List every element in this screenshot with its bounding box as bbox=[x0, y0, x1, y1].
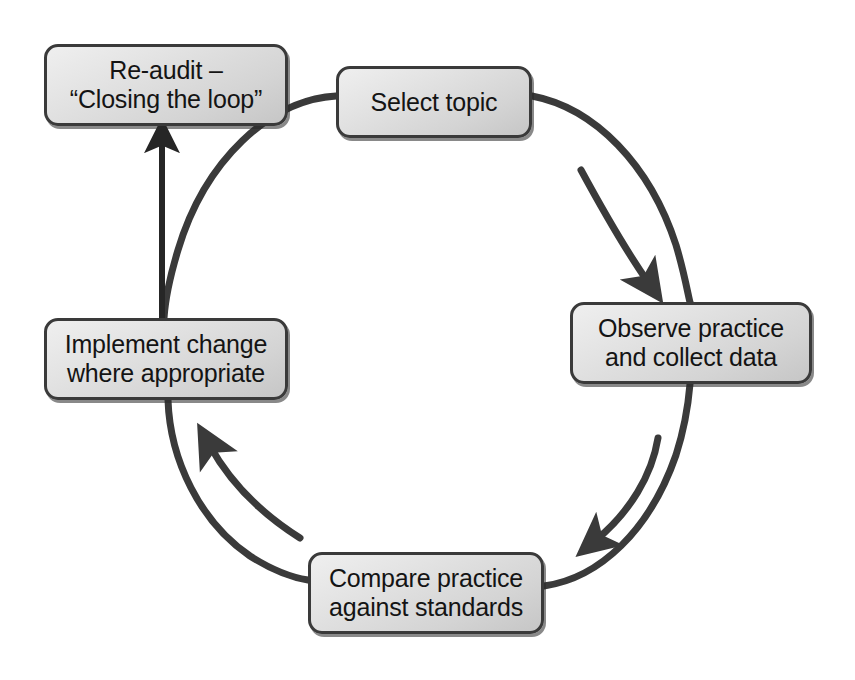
node-observe-practice-label: Observe practice and collect data bbox=[592, 314, 790, 372]
node-compare-practice-label: Compare practice against standards bbox=[323, 564, 529, 622]
node-observe-practice[interactable]: Observe practice and collect data bbox=[570, 302, 812, 384]
node-implement-change-label: Implement change where appropriate bbox=[59, 330, 273, 388]
ring-arc-top-left bbox=[164, 96, 336, 318]
node-implement-change[interactable]: Implement change where appropriate bbox=[44, 318, 288, 400]
node-compare-practice[interactable]: Compare practice against standards bbox=[308, 552, 544, 634]
node-re-audit-label: Re-audit – “Closing the loop” bbox=[64, 56, 268, 114]
arrow-compare-to-implement bbox=[210, 446, 300, 538]
ring-arc-bottom-right bbox=[544, 384, 690, 586]
arrow-observe-to-compare bbox=[596, 438, 658, 540]
node-select-topic[interactable]: Select topic bbox=[336, 66, 532, 138]
ring-arc-top-right bbox=[532, 96, 690, 302]
node-re-audit[interactable]: Re-audit – “Closing the loop” bbox=[44, 44, 288, 126]
clinical-audit-cycle-diagram: Re-audit – “Closing the loop” Select top… bbox=[0, 0, 855, 680]
arrow-select-to-observe bbox=[581, 170, 648, 282]
node-select-topic-label: Select topic bbox=[365, 88, 504, 117]
